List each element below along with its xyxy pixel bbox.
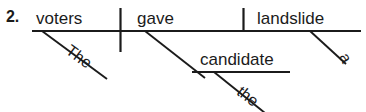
sentence-diagram-exercise: 2. voters gave landslide candidate The t… xyxy=(0,0,366,112)
word-subject: voters xyxy=(36,10,82,27)
word-verb: gave xyxy=(137,10,174,27)
word-indirect-object: candidate xyxy=(200,51,274,68)
word-direct-object: landslide xyxy=(257,10,324,27)
